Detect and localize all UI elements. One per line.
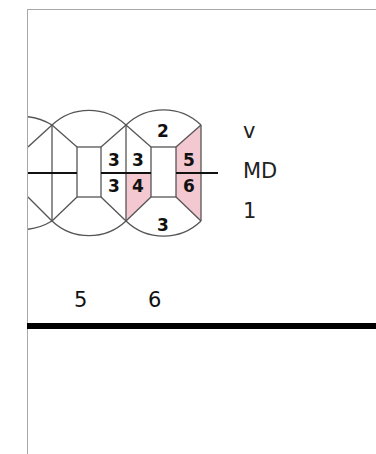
section-divider [27, 323, 376, 329]
tooth6-distal-upper-value: 5 [183, 150, 195, 170]
tooth6-mesial-lower-value: 4 [132, 176, 144, 196]
tooth6-mesial-upper-value: 3 [132, 150, 144, 170]
tooth-number-6: 6 [148, 288, 161, 312]
legend-row-1: 1 [243, 201, 256, 222]
tooth5-distal-upper-value: 3 [108, 150, 120, 170]
tooth6-distal-lower-value: 6 [183, 176, 195, 196]
tooth-number-5: 5 [74, 288, 87, 312]
tooth6-lingual-bottom-value: 3 [157, 215, 169, 235]
legend-row-md: MD [243, 161, 277, 182]
legend-row-v: v [243, 121, 255, 142]
tooth6-buccal-top-value: 2 [157, 121, 169, 141]
tooth5-distal-lower-value: 3 [108, 176, 120, 196]
periodontal-chart: 3 3 2 3 4 5 6 3 [0, 0, 376, 454]
